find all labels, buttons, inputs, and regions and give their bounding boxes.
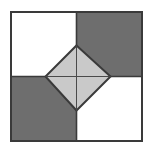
geometry-figure-canvas [0,0,152,153]
